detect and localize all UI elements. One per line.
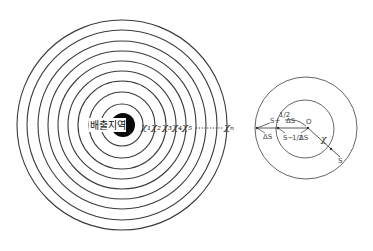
- ring-label-n: χₙ: [223, 121, 234, 132]
- center-o-label: O: [306, 118, 312, 126]
- ring-label-4: χ₄: [171, 121, 182, 132]
- source-label: 배출지역: [90, 120, 126, 131]
- endpoint-s-label: S: [338, 157, 343, 165]
- ring-label-2: χ₂: [150, 121, 161, 132]
- ring-label-1: χ₁: [140, 121, 151, 132]
- delta-s-label: ΔS: [263, 133, 273, 141]
- upper-ds: ΔS: [286, 117, 296, 125]
- right-diagram: S+ 1/2 ΔS ΔS S− 1/2 ΔS O χ S: [255, 77, 357, 179]
- ring-label-3: χ₃: [161, 121, 172, 132]
- ring-label-5: χ₅: [181, 121, 192, 132]
- diagram-canvas: 배출지역 χ₁ χ₂ χ₃ χ₄ χ₅ χₙ S+ 1/2 ΔS ΔS S− 1…: [0, 0, 373, 251]
- ring-labels: χ₁ χ₂ χ₃ χ₄ χ₅ χₙ: [140, 121, 234, 132]
- radius-x-label: χ: [320, 134, 327, 144]
- lower-ds: ΔS: [299, 134, 309, 142]
